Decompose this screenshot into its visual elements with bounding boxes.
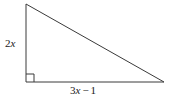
label-horizontal-constant: 1 [91, 84, 97, 96]
label-vertical-variable: x [11, 37, 16, 49]
label-horizontal-side: 3x−1 [70, 85, 96, 96]
label-horizontal-variable: x [76, 84, 81, 96]
triangle-outline [26, 4, 164, 82]
label-horizontal-operator: − [82, 84, 88, 96]
right-angle-marker-icon [26, 74, 34, 82]
label-vertical-side: 2x [5, 38, 15, 49]
figure-container: 2x 3x−1 [0, 0, 170, 101]
